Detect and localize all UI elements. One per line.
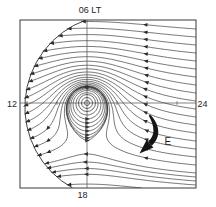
streamline-figure: 06 LT 12 24 18 E xyxy=(0,0,216,207)
streamline xyxy=(37,86,196,165)
streamline xyxy=(56,174,196,185)
streamline xyxy=(34,57,196,77)
flow-arrowhead xyxy=(85,133,89,137)
flow-arrowhead xyxy=(85,125,89,129)
label-e-field: E xyxy=(165,136,172,147)
streamline xyxy=(27,81,196,141)
flow-arrowhead xyxy=(85,129,89,133)
streamline xyxy=(67,184,142,188)
streamline xyxy=(67,28,196,37)
label-18: 18 xyxy=(77,190,87,200)
label-06-lt: 06 LT xyxy=(79,5,102,15)
streamline xyxy=(81,22,196,30)
flow-arrowhead xyxy=(85,117,89,121)
flow-arrowhead xyxy=(85,121,89,125)
flow-arrowhead xyxy=(85,139,89,143)
streamline xyxy=(28,65,196,93)
streamline xyxy=(58,35,196,45)
streamline-diagram: 06 LT 12 24 18 E xyxy=(0,0,216,207)
label-24: 24 xyxy=(197,99,207,109)
label-12: 12 xyxy=(7,99,17,109)
